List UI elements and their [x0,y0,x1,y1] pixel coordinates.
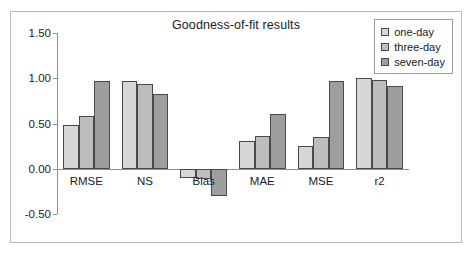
bar [372,80,388,169]
bar [313,137,329,169]
legend-label: three-day [394,41,440,53]
legend-swatch-icon [381,58,389,66]
y-tick-mark [53,124,57,125]
bar [153,94,169,169]
legend-swatch-icon [381,28,389,36]
legend-swatch-icon [381,43,389,51]
y-tick-label: 1.50 [29,27,51,39]
x-axis-label-r2: r2 [375,175,385,187]
y-tick-mark [53,33,57,34]
bar [329,81,345,169]
y-tick-mark [53,214,57,215]
legend-item-seven-day[interactable]: seven-day [381,54,445,69]
bar-group-ns [122,33,169,214]
bar [79,116,95,168]
bar [137,84,153,169]
legend-item-three-day[interactable]: three-day [381,39,445,54]
legend-item-one-day[interactable]: one-day [381,24,445,39]
y-tick-label: -0.50 [25,208,51,220]
bar-group-bias [180,33,227,214]
y-tick-mark [53,169,57,170]
bar [255,136,271,169]
chart-frame: Goodness-of-fit results 1.501.000.500.00… [10,11,462,243]
y-tick-label: 1.00 [29,72,51,84]
bar [94,81,110,169]
bar-group-rmse [63,33,110,214]
x-axis-label-bias: Bias [192,175,214,187]
x-axis-label-mae: MAE [250,175,275,187]
legend-label: one-day [394,26,434,38]
y-tick-label: 0.00 [29,163,51,175]
plot-area: 1.501.000.500.00-0.50 RMSENSBiasMAEMSEr2 [57,33,409,214]
bar-group-mae [239,33,286,214]
bar [298,146,314,169]
bar [63,125,79,168]
bar [122,81,138,169]
chart-legend: one-daythree-dayseven-day [374,19,453,74]
legend-label: seven-day [394,56,445,68]
bar [239,141,255,169]
y-tick-mark [53,78,57,79]
y-tick-label: 0.50 [29,118,51,130]
bar [270,114,286,169]
x-axis-label-mse: MSE [309,175,334,187]
bar [356,78,372,169]
x-axis-label-rmse: RMSE [70,175,103,187]
x-axis-label-ns: NS [137,175,153,187]
bar [387,86,403,168]
bar-group-mse [298,33,345,214]
